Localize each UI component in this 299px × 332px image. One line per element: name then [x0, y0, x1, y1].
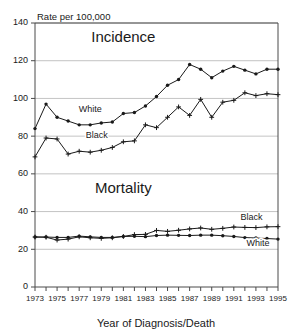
x-tick-label: 1981 — [114, 294, 132, 303]
x-tick-label: 1973 — [26, 294, 44, 303]
y-axis-title: Rate per 100,000 — [37, 11, 110, 22]
x-tick-label: 1977 — [70, 294, 88, 303]
x-tick-label: 1993 — [247, 294, 265, 303]
y-axis-ticks — [31, 23, 35, 287]
series-black-incidence — [33, 90, 281, 159]
y-tick-label: 140 — [13, 17, 28, 27]
x-axis-tick-labels: 1973197519771979198119831985198719891991… — [26, 294, 287, 303]
series-black-mortality — [33, 224, 281, 242]
incidence-mortality-line-chart: 020406080100120140 197319751977197919811… — [0, 0, 299, 332]
x-tick-label: 1989 — [203, 294, 221, 303]
series-tag-black-incidence: Black — [86, 130, 109, 140]
y-tick-label: 120 — [13, 55, 28, 65]
series-white-mortality — [33, 233, 279, 240]
section-label-mortality: Mortality — [95, 179, 152, 196]
x-tick-label: 1991 — [225, 294, 243, 303]
y-tick-label: 60 — [18, 168, 28, 178]
x-tick-label: 1995 — [269, 294, 287, 303]
section-label-incidence: Incidence — [91, 28, 155, 45]
series-tag-black-mortality: Black — [240, 212, 263, 222]
series-tag-white-mortality: White — [247, 238, 270, 248]
chart-container: 020406080100120140 197319751977197919811… — [0, 0, 299, 332]
plot-frame — [35, 23, 278, 287]
x-tick-label: 1985 — [159, 294, 177, 303]
x-tick-label: 1983 — [137, 294, 155, 303]
series-inline-labels: WhiteWhiteBlackBlackWhiteWhiteBlackBlack — [79, 104, 270, 249]
series-tag-white-incidence: White — [79, 104, 102, 114]
x-tick-label: 1987 — [181, 294, 199, 303]
y-axis-tick-labels: 020406080100120140 — [13, 17, 28, 291]
x-axis-title: Year of Diagnosis/Death — [97, 317, 215, 329]
series-white-incidence — [33, 63, 279, 131]
y-tick-label: 40 — [18, 206, 28, 216]
x-tick-label: 1979 — [92, 294, 110, 303]
y-tick-label: 0 — [23, 281, 28, 291]
y-tick-label: 20 — [18, 244, 28, 254]
x-tick-label: 1975 — [48, 294, 66, 303]
y-tick-label: 100 — [13, 93, 28, 103]
x-axis-ticks — [35, 287, 278, 291]
y-tick-label: 80 — [18, 131, 28, 141]
